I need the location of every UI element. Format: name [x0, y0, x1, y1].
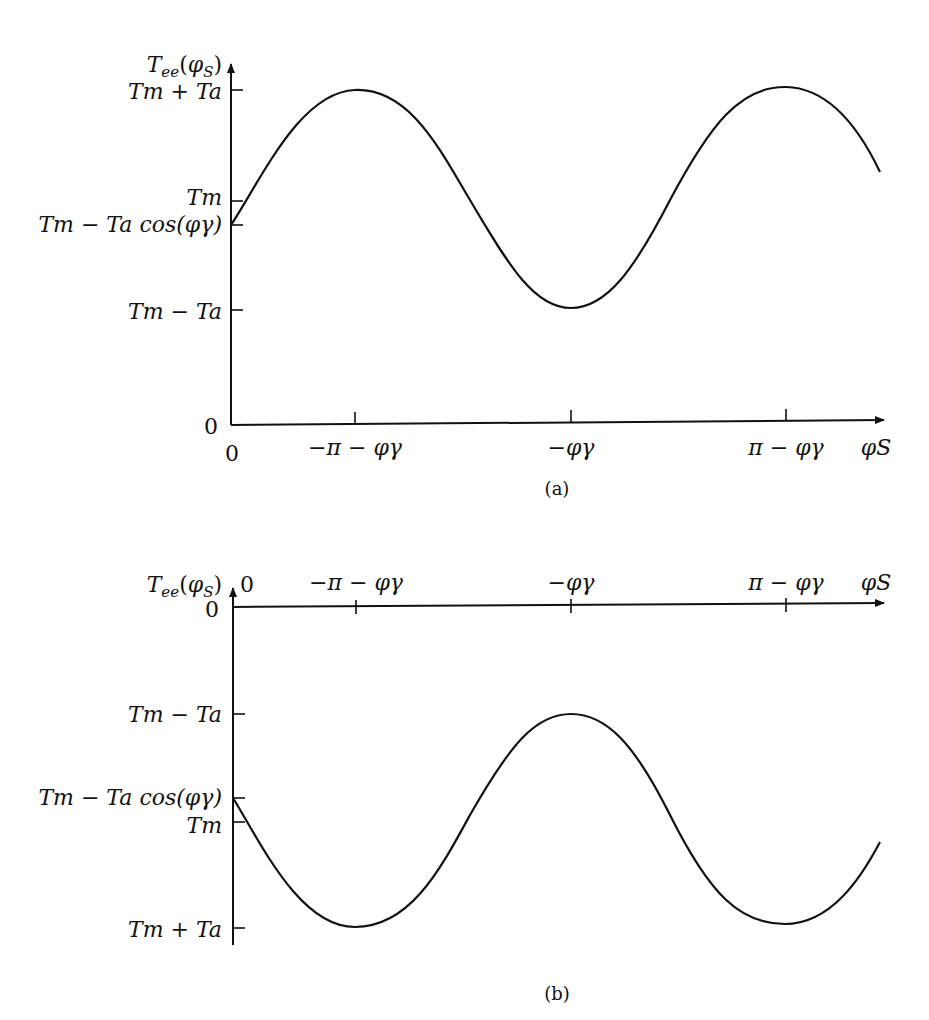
figure: Tee(φS) Tm + Ta Tm Tm − Ta cos(φγ) Tm − … [0, 0, 929, 1020]
panel-a-ytick-label-tm: Tm [186, 185, 222, 210]
panel-b-xtick-label-2: −φγ [548, 570, 596, 595]
panel-b-ytick-label-tm-minus-ta: Tm − Ta [128, 702, 222, 727]
panel-a-xtick-label-1: −π − φγ [308, 435, 403, 460]
panel-b-y-zero-label: 0 [205, 597, 219, 622]
panel-b-curve [233, 714, 880, 927]
panel-a-ytick-label-cos: Tm − Ta cos(φγ) [38, 212, 222, 237]
panel-b-ytick-label-tm: Tm [186, 813, 222, 838]
panel-b-x-zero-label: 0 [240, 572, 254, 597]
panel-b-xtick-label-3: π − φγ [747, 570, 824, 595]
panel-b-ytick-label-cos: Tm − Ta cos(φγ) [38, 785, 222, 810]
panel-b-caption: (b) [544, 983, 570, 1004]
panel-b-ytick-label-tm-plus-ta: Tm + Ta [128, 917, 222, 942]
panel-a-x-axis-label: φS [861, 435, 891, 460]
panel-b: Tee(φS) 0 0 −π − φγ −φγ π − φγ φS Tm − T… [38, 570, 891, 1004]
panel-a-xtick-label-2: −φγ [548, 435, 596, 460]
panel-a-caption: (a) [545, 478, 570, 499]
panel-a-ytick-label-tm-plus-ta: Tm + Ta [128, 79, 222, 104]
panel-a-y-zero-label: 0 [204, 414, 218, 439]
panel-b-xtick-label-1: −π − φγ [309, 570, 404, 595]
panel-b-x-axis-label: φS [861, 570, 891, 595]
panel-a-xtick-label-3: π − φγ [747, 435, 824, 460]
panel-a-y-axis-label: Tee(φS) [147, 52, 222, 81]
panel-a-ytick-label-tm-minus-ta: Tm − Ta [128, 299, 222, 324]
panel-a-curve [231, 87, 880, 308]
panel-a: Tee(φS) Tm + Ta Tm Tm − Ta cos(φγ) Tm − … [38, 52, 891, 499]
panel-a-x-zero-label: 0 [225, 441, 239, 466]
